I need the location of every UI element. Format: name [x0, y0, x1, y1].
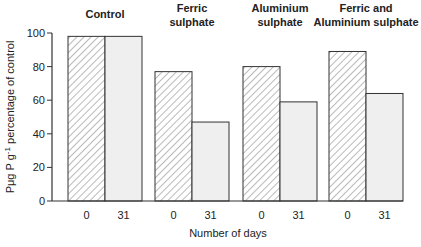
group-label: sulphate: [169, 16, 214, 28]
x-tick-label: 0: [170, 209, 176, 221]
y-tick-label: 80: [33, 61, 45, 73]
bar-31-day: [280, 102, 317, 201]
y-tick-label: 60: [33, 94, 45, 106]
bar-31-day: [366, 93, 403, 201]
x-tick-label: 31: [292, 209, 304, 221]
bars-layer: [68, 36, 403, 201]
x-axis-title: Number of days: [189, 227, 267, 239]
bar-0-day: [155, 72, 192, 201]
bar-0-day: [68, 36, 105, 201]
y-tick-label: 20: [33, 161, 45, 173]
group-label: Aluminium sulphate: [313, 16, 418, 28]
y-tick-label: 100: [27, 27, 45, 39]
group-label: sulphate: [257, 16, 302, 28]
y-tick-label: 40: [33, 128, 45, 140]
bar-0-day: [243, 67, 280, 201]
x-tick-label: 0: [344, 209, 350, 221]
x-tick-label: 0: [83, 209, 89, 221]
bar-chart: 031Control031Ferricsulphate031Aluminiums…: [0, 0, 421, 247]
group-label: Ferric: [177, 2, 208, 14]
bar-0-day: [329, 51, 366, 201]
group-label: Aluminium: [252, 2, 309, 14]
x-tick-label: 0: [258, 209, 264, 221]
x-tick-label: 31: [204, 209, 216, 221]
group-label: Control: [85, 8, 124, 20]
x-tick-label: 31: [378, 209, 390, 221]
x-tick-label: 31: [117, 209, 129, 221]
bar-31-day: [105, 36, 142, 201]
bar-31-day: [192, 122, 229, 201]
y-tick-label: 0: [39, 195, 45, 207]
y-axis-title: Pμg P g-1 percentage of control: [3, 41, 16, 194]
group-label: Ferric and: [339, 2, 392, 14]
